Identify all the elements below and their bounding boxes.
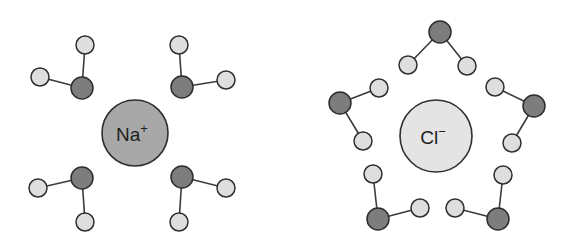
hydrogen-atom xyxy=(370,79,388,97)
oxygen-atom xyxy=(429,21,451,43)
ion-charge: + xyxy=(140,121,148,136)
hydrogen-atom xyxy=(494,166,512,184)
hydrogen-atom xyxy=(31,68,49,86)
hydrogen-atom xyxy=(486,78,504,96)
hydrogen-atom xyxy=(217,71,235,89)
hydrogen-atom xyxy=(29,179,47,197)
hydrogen-atom xyxy=(458,57,476,75)
hydrogen-atom xyxy=(170,36,188,54)
ion-symbol: Cl xyxy=(420,127,438,148)
na-water-bottom-right xyxy=(170,166,235,231)
na-water-top-left xyxy=(31,36,94,99)
sodium-ion: Na+ xyxy=(102,100,168,166)
hydration-diagram: Na+ Cl− xyxy=(0,0,573,250)
oxygen-atom xyxy=(523,95,545,117)
ion-symbol: Na xyxy=(116,124,141,145)
sodium-hydration-shell: Na+ xyxy=(29,36,235,231)
hydration-canvas: Na+ Cl− xyxy=(0,0,573,250)
cl-water-upper-left xyxy=(329,79,388,150)
oxygen-atom xyxy=(171,76,193,98)
oxygen-atom xyxy=(71,167,93,189)
oxygen-atom xyxy=(487,208,509,230)
hydrogen-atom xyxy=(503,134,521,152)
chloride-hydration-shell: Cl− xyxy=(329,21,545,230)
hydrogen-atom xyxy=(217,179,235,197)
hydrogen-atom xyxy=(354,132,372,150)
hydrogen-atom xyxy=(399,56,417,74)
hydrogen-atom xyxy=(446,199,464,217)
na-water-top-right xyxy=(170,36,235,98)
cl-water-upper-right xyxy=(486,78,545,152)
hydrogen-atom xyxy=(76,213,94,231)
hydrogen-atom xyxy=(170,213,188,231)
cl-water-lower-left xyxy=(364,165,429,230)
hydrogen-atom xyxy=(76,36,94,54)
oxygen-atom xyxy=(171,166,193,188)
oxygen-atom xyxy=(329,92,351,114)
cl-water-top xyxy=(399,21,476,75)
chloride-ion: Cl− xyxy=(400,100,472,172)
hydrogen-atom xyxy=(364,165,382,183)
hydrogen-atom xyxy=(411,199,429,217)
na-water-bottom-left xyxy=(29,167,94,231)
oxygen-atom xyxy=(367,208,389,230)
cl-water-lower-right xyxy=(446,166,512,230)
oxygen-atom xyxy=(71,77,93,99)
ion-charge: − xyxy=(438,124,446,139)
